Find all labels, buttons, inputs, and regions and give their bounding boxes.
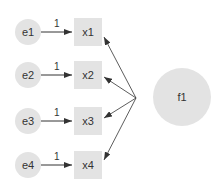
indicator-nodes: x1 x2 x3 x4 bbox=[74, 18, 102, 179]
error-label-e3: e3 bbox=[22, 115, 34, 127]
indicator-label-x4: x4 bbox=[82, 159, 94, 171]
diagram-svg: 1 1 1 1 e1 e2 e3 e4 x1 x2 x3 x4 f1 bbox=[0, 0, 212, 191]
error-edges: 1 1 1 1 bbox=[41, 18, 72, 165]
loading-edges bbox=[104, 37, 136, 160]
error-nodes: e1 e2 e3 e4 bbox=[15, 19, 41, 178]
factor-label-f1: f1 bbox=[177, 91, 186, 103]
edge-f1-x1 bbox=[104, 37, 136, 98]
error-label-e4: e4 bbox=[22, 159, 34, 171]
indicator-label-x1: x1 bbox=[82, 26, 94, 38]
factor-node-group: f1 bbox=[153, 68, 211, 126]
error-label-e1: e1 bbox=[22, 26, 34, 38]
edge-f1-x2 bbox=[104, 77, 136, 98]
weight-label-3: 1 bbox=[54, 107, 60, 118]
weight-label-4: 1 bbox=[54, 151, 60, 162]
weight-label-2: 1 bbox=[54, 61, 60, 72]
indicator-label-x3: x3 bbox=[82, 115, 94, 127]
edge-f1-x4 bbox=[104, 98, 136, 160]
path-diagram: 1 1 1 1 e1 e2 e3 e4 x1 x2 x3 x4 f1 bbox=[0, 0, 212, 191]
weight-label-1: 1 bbox=[54, 18, 60, 29]
indicator-label-x2: x2 bbox=[82, 69, 94, 81]
error-label-e2: e2 bbox=[22, 69, 34, 81]
